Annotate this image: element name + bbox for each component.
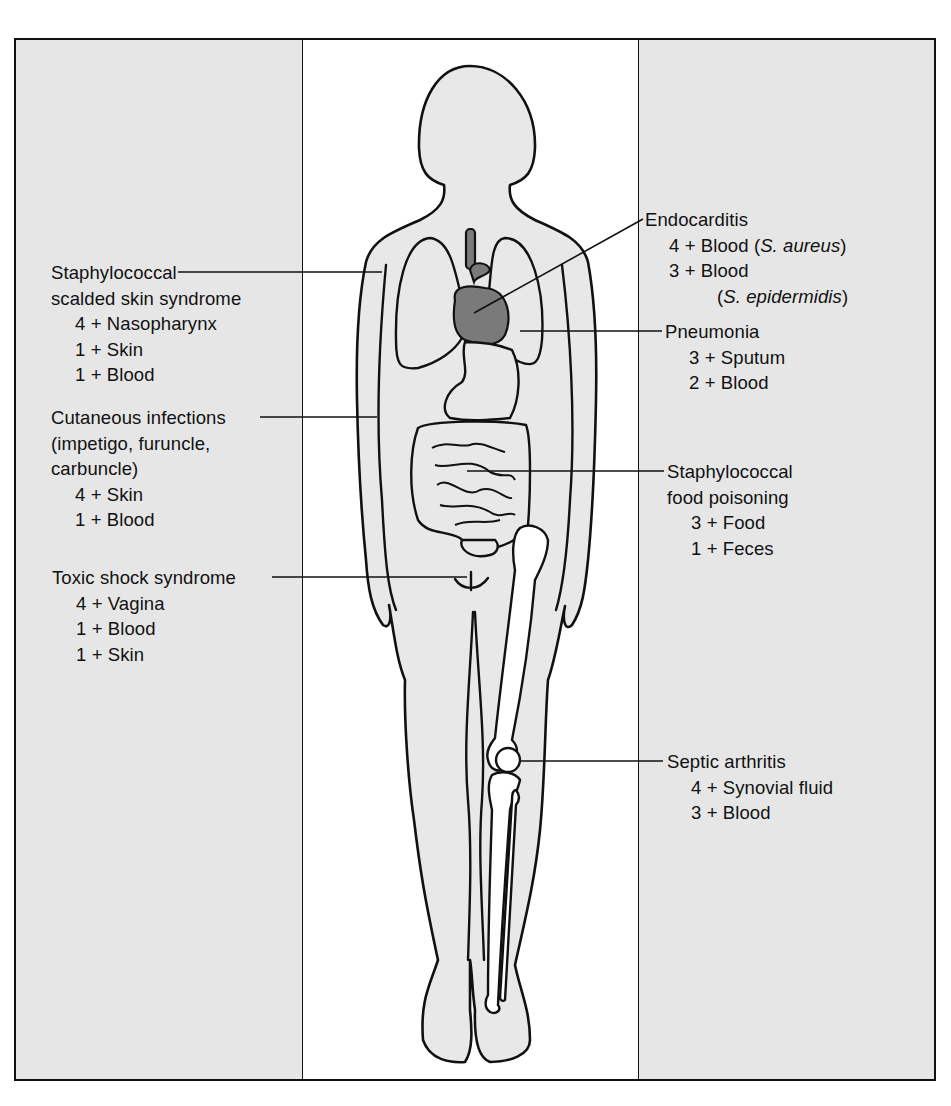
label-title: Cutaneous infections (51, 405, 226, 431)
label-title: food poisoning (667, 485, 793, 511)
specimen-row: 1 + Blood (52, 616, 236, 642)
label-title: Toxic shock syndrome (52, 565, 236, 591)
patella-icon (496, 748, 520, 772)
specimen-row: 4 + Vagina (52, 591, 236, 617)
specimen-row: 2 + Blood (665, 370, 785, 396)
specimen-row: 1 + Skin (51, 337, 241, 363)
body-silhouette-icon (357, 66, 596, 1062)
label-scalded-skin-syndrome: Staphylococcal scalded skin syndrome 4 +… (51, 260, 241, 388)
label-title: Endocarditis (645, 207, 848, 233)
specimen-row: 4 + Skin (51, 482, 226, 508)
specimen-row: 1 + Feces (667, 536, 793, 562)
label-title: Pneumonia (665, 319, 785, 345)
label-toxic-shock-syndrome: Toxic shock syndrome 4 + Vagina 1 + Bloo… (52, 565, 236, 667)
specimen-row: 1 + Skin (52, 642, 236, 668)
body-figure (0, 0, 951, 1106)
specimen-row: 1 + Blood (51, 362, 241, 388)
label-endocarditis: Endocarditis 4 + Blood (S. aureus) 3 + B… (645, 207, 848, 309)
specimen-row: 4 + Blood (S. aureus) (645, 233, 848, 259)
organism-note: (S. epidermidis) (645, 284, 848, 310)
label-food-poisoning: Staphylococcal food poisoning 3 + Food 1… (667, 459, 793, 561)
label-title: (impetigo, furuncle, (51, 431, 226, 457)
label-title: carbuncle) (51, 456, 226, 482)
specimen-row: 3 + Blood (645, 258, 848, 284)
label-title: Septic arthritis (667, 749, 833, 775)
intestines-icon (411, 422, 530, 549)
label-cutaneous-infections: Cutaneous infections (impetigo, furuncle… (51, 405, 226, 533)
label-title: Staphylococcal (667, 459, 793, 485)
specimen-row: 1 + Blood (51, 507, 226, 533)
specimen-row: 4 + Synovial fluid (667, 775, 833, 801)
label-title: Staphylococcal (51, 260, 241, 286)
label-title: scalded skin syndrome (51, 286, 241, 312)
specimen-row: 3 + Blood (667, 800, 833, 826)
specimen-row: 3 + Sputum (665, 345, 785, 371)
specimen-row: 4 + Nasopharynx (51, 311, 241, 337)
label-pneumonia: Pneumonia 3 + Sputum 2 + Blood (665, 319, 785, 396)
specimen-row: 3 + Food (667, 510, 793, 536)
label-septic-arthritis: Septic arthritis 4 + Synovial fluid 3 + … (667, 749, 833, 826)
